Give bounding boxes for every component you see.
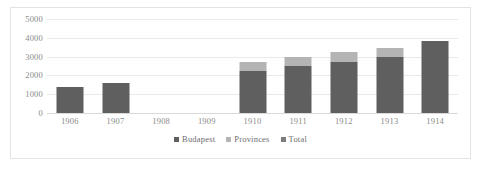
bar-slot <box>95 19 137 113</box>
bar-segment-provinces[interactable] <box>285 57 312 66</box>
bar-segment-budapest[interactable] <box>56 87 83 113</box>
bar-slot <box>414 19 456 113</box>
x-axis-tick-label: 1907 <box>95 116 137 126</box>
plot-area <box>47 19 458 113</box>
bar-segment-budapest[interactable] <box>330 62 357 113</box>
legend-item[interactable]: Budapest <box>174 134 215 144</box>
bar-segment-budapest[interactable] <box>102 83 129 113</box>
legend-swatch-icon <box>226 137 231 142</box>
bar-segment-provinces[interactable] <box>330 52 357 62</box>
bar-slot <box>323 19 365 113</box>
bar-column[interactable] <box>285 57 312 113</box>
x-axis-tick-label: 1914 <box>414 116 456 126</box>
legend-item[interactable]: Provinces <box>226 134 269 144</box>
legend-item[interactable]: Total <box>281 134 307 144</box>
bar-column[interactable] <box>102 83 129 113</box>
bar-slot <box>140 19 182 113</box>
y-axis: 010002000300040005000 <box>11 19 43 113</box>
bar-slot <box>186 19 228 113</box>
legend-label: Total <box>289 134 307 144</box>
chart-legend: BudapestProvincesTotal <box>11 134 470 144</box>
bar-column[interactable] <box>422 41 449 113</box>
y-axis-tick-label: 0 <box>9 109 43 118</box>
y-axis-tick-label: 4000 <box>9 34 43 43</box>
bar-column[interactable] <box>376 48 403 113</box>
bar-segment-budapest[interactable] <box>422 41 449 113</box>
bar-column[interactable] <box>56 87 83 113</box>
x-axis-tick-label: 1909 <box>186 116 228 126</box>
bar-column[interactable] <box>330 52 357 113</box>
y-axis-tick-label: 5000 <box>9 15 43 24</box>
x-axis: 190619071908190919101911191219131914 <box>47 116 458 130</box>
x-axis-tick-label: 1908 <box>140 116 182 126</box>
y-axis-tick-label: 2000 <box>9 71 43 80</box>
bar-segment-budapest[interactable] <box>376 57 403 113</box>
bar-segment-provinces[interactable] <box>376 48 403 57</box>
bar-segment-budapest[interactable] <box>239 71 266 113</box>
bar-slot <box>369 19 411 113</box>
legend-swatch-icon <box>174 137 179 142</box>
bar-segment-budapest[interactable] <box>285 66 312 113</box>
bar-slot <box>49 19 91 113</box>
legend-label: Budapest <box>182 134 215 144</box>
chart-container: 010002000300040005000 190619071908190919… <box>10 7 471 159</box>
y-axis-tick-label: 1000 <box>9 90 43 99</box>
x-axis-tick-label: 1911 <box>277 116 319 126</box>
x-axis-tick-label: 1913 <box>369 116 411 126</box>
legend-swatch-icon <box>281 137 286 142</box>
y-axis-tick-label: 3000 <box>9 53 43 62</box>
x-axis-tick-label: 1910 <box>232 116 274 126</box>
bar-slot <box>232 19 274 113</box>
bar-segment-provinces[interactable] <box>239 62 266 70</box>
legend-label: Provinces <box>234 134 269 144</box>
x-axis-line <box>47 113 458 114</box>
bar-slot <box>277 19 319 113</box>
x-axis-tick-label: 1912 <box>323 116 365 126</box>
bar-column[interactable] <box>239 62 266 113</box>
x-axis-tick-label: 1906 <box>49 116 91 126</box>
